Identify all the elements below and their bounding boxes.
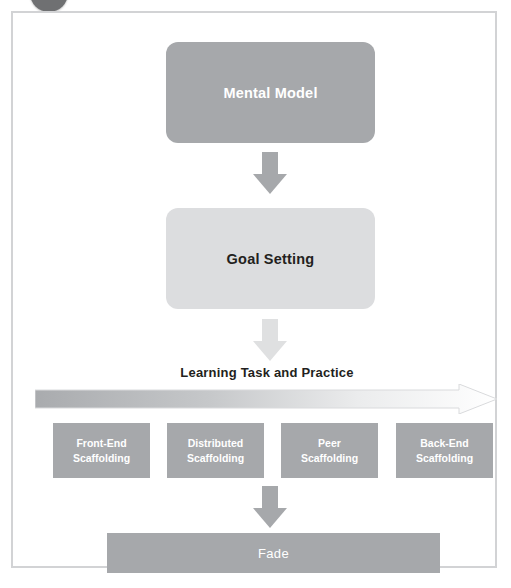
scaffold-box-front-end: Front-End Scaffolding [53,423,150,478]
scaffold-label-line2: Scaffolding [73,452,130,464]
scaffold-label-line1: Distributed [188,437,243,449]
node-mental-model-label: Mental Model [223,85,317,101]
arrow-head [253,341,287,361]
scaffold-label-line2: Scaffolding [187,452,244,464]
arrow-head [253,508,287,528]
node-goal-setting-label: Goal Setting [227,251,315,267]
practice-phase-label: Learning Task and Practice [24,365,510,380]
node-mental-model: Mental Model [166,42,375,143]
arrow-shaft [262,152,278,176]
arrow-shaft [262,319,278,343]
scaffold-label-line1: Peer [318,437,341,449]
down-arrow-icon-3 [253,486,287,528]
scaffold-box-back-end: Back-End Scaffolding [396,423,493,478]
scaffold-box-peer: Peer Scaffolding [281,423,378,478]
scaffolding-flow-diagram: Mental Model Goal Setting Learning Task … [0,0,511,588]
scaffold-box-distributed: Distributed Scaffolding [167,423,264,478]
diagram-frame: Mental Model Goal Setting Learning Task … [11,11,497,568]
down-arrow-icon-1 [253,152,287,194]
node-fade-label: Fade [258,546,289,561]
scaffold-label-line1: Front-End [76,437,126,449]
arrow-shaft [262,486,278,510]
practice-gradient-arrow-icon [35,384,497,414]
scaffold-label-line2: Scaffolding [301,452,358,464]
node-fade: Fade [107,533,440,573]
down-arrow-icon-2 [253,319,287,361]
scaffold-label-line1: Back-End [420,437,468,449]
scaffold-label-line2: Scaffolding [416,452,473,464]
node-goal-setting: Goal Setting [166,208,375,309]
arrow-head [253,174,287,194]
